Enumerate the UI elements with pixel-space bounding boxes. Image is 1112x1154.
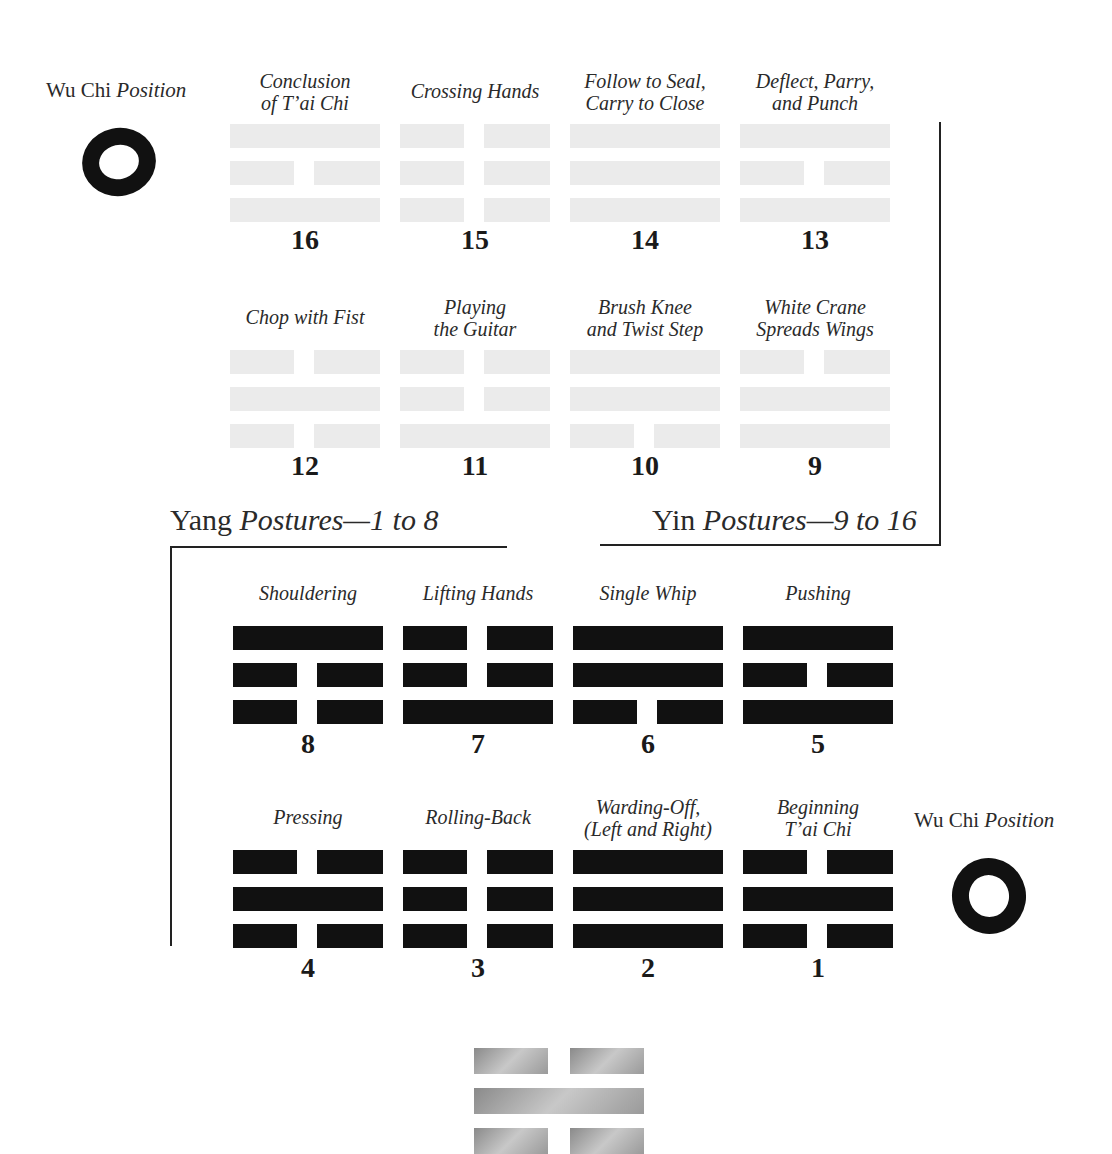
yin-line [233,850,383,874]
yin-line [403,626,553,650]
posture-number: 10 [570,450,720,482]
yang-line [233,887,383,911]
yin-line [743,663,893,687]
yin-subtitle: Postures—9 to 16 [703,503,917,536]
posture-label: Deflect, Parry, and Punch [710,70,920,114]
yin-line [400,387,550,411]
posture-label: Beginning T’ai Chi [713,796,923,840]
yang-section-title: Yang Postures—1 to 8 [170,503,438,537]
yang-line [743,700,893,724]
yin-line [403,663,553,687]
yin-name: Yin [652,503,695,536]
yin-line [403,887,553,911]
yang-line [570,350,720,374]
posture-label: Pushing [713,582,923,604]
posture-number: 16 [230,224,380,256]
yin-line [403,850,553,874]
yang-line [570,198,720,222]
yang-line [740,198,890,222]
posture-number: 1 [743,952,893,984]
posture-number: 12 [230,450,380,482]
yin-frame-right-rule [939,122,941,546]
yang-line [573,924,723,948]
yin-line [400,350,550,374]
posture-label: White Crane Spreads Wings [710,296,920,340]
wu-chi-suffix: Position [116,78,186,102]
yin-line [230,424,380,448]
yang-name: Yang [170,503,232,536]
yang-line [743,887,893,911]
posture-number: 15 [400,224,550,256]
yin-section-title: Yin Postures—9 to 16 [652,503,917,537]
posture-number: 7 [403,728,553,760]
yang-subtitle: Postures—1 to 8 [239,503,438,536]
yang-line [403,700,553,724]
yin-line [570,424,720,448]
posture-number: 11 [400,450,550,482]
wu-chi-name: Wu Chi [46,78,111,102]
yin-line [573,700,723,724]
yang-line [740,387,890,411]
yang-line [474,1088,644,1114]
wu-chi-suffix: Position [984,808,1054,832]
yin-line [740,161,890,185]
yang-line [230,198,380,222]
yin-line [474,1048,644,1074]
yang-line [233,626,383,650]
wu-chi-title-bottom: Wu Chi Position [914,808,1054,833]
yin-frame-bottom-rule [600,544,941,546]
enso-circle-icon [945,851,1033,941]
yin-line [740,350,890,374]
yang-line [740,124,890,148]
yang-line [230,387,380,411]
yin-line [400,198,550,222]
wu-chi-name: Wu Chi [914,808,979,832]
posture-number: 4 [233,952,383,984]
yang-frame-top-rule [170,546,507,548]
posture-number: 5 [743,728,893,760]
yang-line [573,626,723,650]
yin-line [743,850,893,874]
posture-number: 3 [403,952,553,984]
enso-circle-icon [76,121,163,203]
yin-line [474,1128,644,1154]
yang-line [573,663,723,687]
yang-line [570,161,720,185]
yang-frame-left-rule [170,546,172,946]
posture-number: 6 [573,728,723,760]
yin-line [403,924,553,948]
yang-line [230,124,380,148]
yang-line [400,424,550,448]
yin-line [233,663,383,687]
yang-line [573,887,723,911]
yang-line [570,124,720,148]
yin-line [743,924,893,948]
posture-number: 8 [233,728,383,760]
yin-line [230,350,380,374]
yang-line [573,850,723,874]
wu-chi-title-top: Wu Chi Position [46,78,186,103]
yang-line [743,626,893,650]
yin-line [233,924,383,948]
posture-number: 14 [570,224,720,256]
yin-line [400,124,550,148]
yin-line [233,700,383,724]
posture-number: 2 [573,952,723,984]
posture-number: 9 [740,450,890,482]
posture-number: 13 [740,224,890,256]
yang-line [740,424,890,448]
yin-line [400,161,550,185]
yang-line [570,387,720,411]
yin-line [230,161,380,185]
